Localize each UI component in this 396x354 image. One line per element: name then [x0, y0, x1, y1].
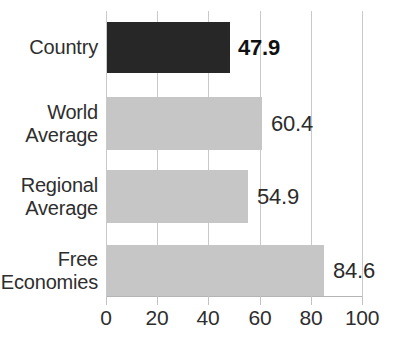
x-axis-line [106, 296, 363, 297]
bar-value-country: 47.9 [238, 37, 280, 59]
category-label-line2: Average [0, 124, 98, 147]
category-label-country: Country [0, 36, 98, 59]
bar-value-regional-average: 54.9 [257, 186, 299, 208]
category-label-line1: World [0, 101, 98, 124]
category-label-free-economies: Free Economies [0, 248, 98, 294]
bar-row: Free Economies 84.6 [0, 245, 396, 297]
bar-free-economies [107, 245, 324, 297]
bar-chart: Country 47.9 World Average 60.4 Regional… [0, 0, 396, 354]
x-tick-mark-20 [157, 296, 158, 305]
x-tick-mark-60 [260, 296, 261, 305]
category-label-line2: Average [0, 197, 98, 220]
bar-value-world-average: 60.4 [271, 113, 313, 135]
x-tick-label-100: 100 [332, 306, 392, 330]
category-label-world-average: World Average [0, 101, 98, 147]
bar-value-free-economies: 84.6 [333, 260, 375, 282]
x-tick-label-40: 40 [178, 306, 238, 330]
category-label-regional-average: Regional Average [0, 174, 98, 220]
bar-row: Country 47.9 [0, 22, 396, 73]
bar-world-average [107, 97, 262, 150]
bar-country [107, 22, 230, 73]
x-tick-mark-100 [362, 296, 363, 305]
category-label-line2: Economies [0, 271, 98, 294]
bar-regional-average [107, 170, 248, 223]
bar-row: Regional Average 54.9 [0, 170, 396, 223]
category-label-line1: Regional [0, 174, 98, 197]
category-label-line1: Country [29, 36, 98, 58]
category-label-line1: Free [0, 248, 98, 271]
bar-row: World Average 60.4 [0, 97, 396, 150]
x-tick-mark-40 [208, 296, 209, 305]
x-tick-mark-0 [106, 296, 107, 305]
x-tick-mark-80 [311, 296, 312, 305]
